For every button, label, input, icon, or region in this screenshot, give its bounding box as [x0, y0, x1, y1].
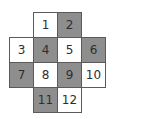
- cell-label: 8: [42, 69, 50, 81]
- numbered-grid-diagram: 1 2 3 4 5 6 7 8 9 10 11 12: [0, 0, 144, 119]
- cell-label: 12: [62, 94, 77, 106]
- cell-label: 3: [18, 44, 26, 56]
- cell-2: 2: [57, 12, 82, 38]
- cell-label: 10: [86, 69, 101, 81]
- cell-3: 3: [9, 37, 34, 63]
- cell-label: 1: [42, 19, 50, 31]
- cell-label: 6: [90, 44, 98, 56]
- cell-9: 9: [57, 62, 82, 88]
- cell-label: 4: [42, 44, 50, 56]
- cell-7: 7: [9, 62, 34, 88]
- cell-12: 12: [57, 87, 82, 113]
- cell-11: 11: [33, 87, 58, 113]
- cell-label: 9: [66, 69, 74, 81]
- cell-label: 11: [38, 94, 53, 106]
- cell-6: 6: [81, 37, 106, 63]
- cell-label: 2: [66, 19, 74, 31]
- cell-label: 7: [18, 69, 26, 81]
- cell-4: 4: [33, 37, 58, 63]
- cell-8: 8: [33, 62, 58, 88]
- cell-label: 5: [66, 44, 74, 56]
- cell-10: 10: [81, 62, 106, 88]
- cell-1: 1: [33, 12, 58, 38]
- cell-5: 5: [57, 37, 82, 63]
